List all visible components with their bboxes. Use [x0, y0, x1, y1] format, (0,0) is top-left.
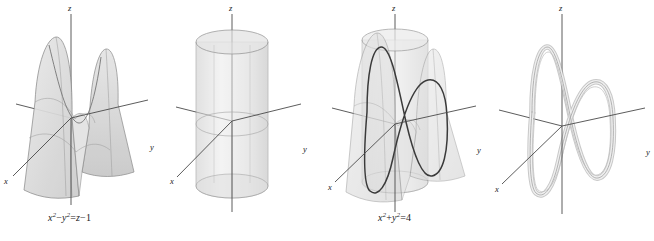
axis-label-z: z [558, 3, 563, 13]
saddle-right-wing [82, 49, 134, 177]
axes-front [502, 108, 645, 214]
equation-label-panel-1: x2−y2=z−1 [48, 211, 91, 223]
four-panel-surface-figure: x y z x2−y2=z−1 [0, 0, 654, 241]
axis-label-x: x [3, 176, 8, 186]
space-curve-panel: x y z [482, 0, 654, 241]
axis-label-y: y [645, 147, 650, 157]
axis-label-z: z [67, 3, 72, 13]
axis-label-z: z [391, 3, 396, 13]
axis-label-z: z [228, 3, 233, 13]
axis-label-y: y [149, 142, 154, 152]
axis-label-x: x [327, 182, 332, 192]
axis-label-x: x [494, 184, 499, 194]
hyperbolic-paraboloid-panel: x y z x2−y2=z−1 [0, 0, 170, 241]
axis-label-y: y [302, 144, 307, 154]
circular-cylinder-panel: x y z x2+y2=4 [170, 0, 320, 241]
axis-label-x: x [169, 176, 174, 186]
axis-label-y: y [476, 145, 481, 155]
surfaces-intersection-panel: x y z [320, 0, 482, 241]
